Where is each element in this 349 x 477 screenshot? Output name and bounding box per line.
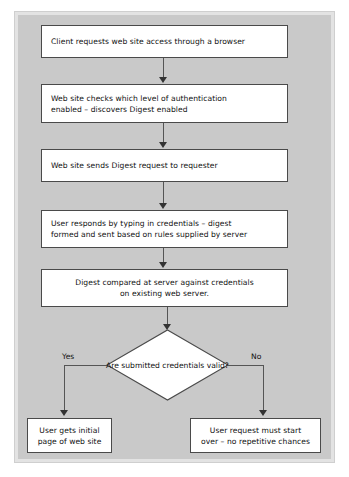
branch-no-horizontal [227,365,263,366]
process-box-step-5-line-1: Digest compared at server against creden… [75,277,253,288]
connector-4-5 [163,248,164,263]
branch-no-arrowhead [259,410,267,416]
process-box-step-4: User responds by typing in credentials –… [41,210,288,248]
process-box-step-4-line-1: User responds by typing in credentials –… [51,218,247,229]
flowchart-canvas: Client requests web site access through … [0,0,349,477]
connector-1-2 [163,58,164,78]
process-box-step-2-line-2: enabled – discovers Digest enabled [51,104,227,115]
process-box-step-5: Digest compared at server against creden… [41,269,288,307]
connector-2-3 [163,123,164,143]
connector-3-4 [163,182,164,204]
process-box-step-3-text: Web site sends Digest request to request… [51,160,218,171]
branch-yes-label: Yes [62,352,74,362]
branch-yes-vertical [64,365,65,411]
process-box-step-4-line-2: formed and sent based on rules supplied … [51,229,247,240]
decision-diamond-label: Are submitted credentials valid? [106,329,229,401]
decision-diamond: Are submitted credentials valid? [106,329,229,401]
connector-5-decision [167,307,168,325]
outcome-box-no-line-2: over – no repetitive chances [201,436,310,447]
decision-label-line-3: valid? [207,361,229,370]
process-box-step-3: Web site sends Digest request to request… [41,149,288,182]
outcome-box-no: User request must start over – no repeti… [190,418,321,453]
process-box-step-1-text: Client requests web site access through … [51,36,245,47]
process-box-step-5-line-2: on existing web server. [75,288,253,299]
branch-no-label: No [251,352,261,362]
branch-yes-arrowhead [60,410,68,416]
connector-1-2-arrowhead [159,77,167,83]
process-box-step-2-line-1: Web site checks which level of authentic… [51,93,227,104]
connector-3-4-arrowhead [159,203,167,209]
outcome-box-no-line-1: User request must start [201,425,310,436]
connector-2-3-arrowhead [159,142,167,148]
decision-label-line-2: credentials [162,361,204,370]
branch-yes-horizontal [64,365,108,366]
process-box-step-1: Client requests web site access through … [41,25,288,58]
process-box-step-2: Web site checks which level of authentic… [41,84,288,123]
connector-4-5-arrowhead [159,262,167,268]
outcome-box-yes-line-2: page of web site [38,436,102,447]
decision-label-line-1: Are submitted [106,361,160,370]
outcome-box-yes-line-1: User gets initial [38,425,102,436]
outcome-box-yes: User gets initial page of web site [27,418,112,453]
branch-no-vertical [263,365,264,411]
